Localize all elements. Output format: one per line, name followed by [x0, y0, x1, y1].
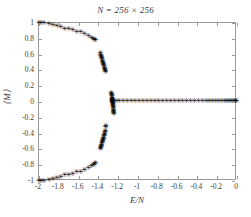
- data-point-marker: ✳: [102, 69, 108, 76]
- data-point-marker: ✳: [78, 29, 84, 36]
- data-point-marker: ✳: [164, 98, 170, 105]
- data-point-marker: ✳: [110, 105, 116, 112]
- data-point-marker: ✳: [89, 162, 95, 169]
- data-point-marker: ✳: [86, 164, 92, 171]
- data-point-marker: ✳: [101, 65, 107, 72]
- y-tick-mark-right: [232, 70, 235, 71]
- data-point-marker: ✳: [98, 141, 104, 148]
- data-point-marker: ✳: [109, 92, 115, 99]
- x-tick-label: -0.2: [210, 182, 222, 191]
- data-point-marker: ✳: [109, 97, 115, 104]
- data-point-marker: ✳: [97, 145, 103, 152]
- data-point-marker: ✳: [223, 98, 229, 105]
- data-point-marker: ✳: [140, 97, 146, 104]
- data-point-marker: ✳: [120, 98, 126, 105]
- data-point-marker: ✳: [116, 97, 122, 104]
- x-tick-mark: [197, 176, 198, 179]
- data-point-marker: ✳: [128, 98, 134, 105]
- data-point-marker: ✳: [102, 124, 108, 131]
- data-point-marker: ✳: [92, 160, 98, 167]
- x-tick-label: -1: [134, 182, 140, 191]
- x-tick-mark-top: [237, 23, 238, 26]
- y-tick-mark: [39, 39, 42, 40]
- data-point-marker: ✳: [99, 56, 105, 63]
- data-point-marker: ✳: [180, 97, 186, 104]
- data-point-marker: ✳: [101, 64, 107, 71]
- data-point-marker: ✳: [110, 97, 116, 104]
- data-point-marker: ✳: [132, 97, 138, 104]
- page-title: N = 256 × 256: [0, 5, 251, 15]
- data-point-marker: ✳: [109, 91, 115, 98]
- y-tick-label: -0.4: [4, 128, 34, 137]
- data-point-marker: ✳: [74, 28, 80, 35]
- y-tick-mark-right: [232, 23, 235, 24]
- data-point-marker: ✳: [203, 98, 209, 105]
- x-axis-label: E/N: [38, 195, 236, 205]
- x-tick-mark-top: [217, 23, 218, 26]
- data-point-marker: ✳: [100, 134, 106, 141]
- y-tick-mark: [39, 23, 42, 24]
- data-point-marker: ✳: [168, 97, 174, 104]
- x-tick-mark-top: [178, 23, 179, 26]
- x-tick-mark: [79, 176, 80, 179]
- data-point-marker: ✳: [97, 146, 103, 153]
- data-point-marker: ✳: [103, 122, 109, 129]
- y-tick-mark: [39, 149, 42, 150]
- data-point-marker: ✳: [100, 61, 106, 68]
- data-point-marker: ✳: [92, 161, 98, 168]
- data-point-marker: ✳: [89, 35, 95, 42]
- x-tick-mark-top: [138, 23, 139, 26]
- data-point-marker: ✳: [101, 130, 107, 137]
- data-point-marker: ✳: [109, 99, 115, 106]
- y-tick-mark: [39, 134, 42, 135]
- data-point-marker: ✳: [70, 27, 76, 34]
- data-point-marker: ✳: [78, 168, 84, 175]
- data-point-marker: ✳: [229, 97, 235, 104]
- y-tick-label: 0.2: [4, 81, 34, 90]
- data-point-marker: ✳: [110, 99, 116, 106]
- y-tick-mark-right: [232, 55, 235, 56]
- y-tick-label: -0.8: [4, 160, 34, 169]
- data-point-marker: ✳: [62, 25, 68, 32]
- x-tick-mark: [39, 176, 40, 179]
- data-point-marker: ✳: [195, 97, 201, 104]
- y-tick-label: 0.8: [4, 33, 34, 42]
- y-tick-mark: [39, 70, 42, 71]
- data-point-marker: ✳: [111, 110, 117, 117]
- data-point-marker: ✳: [110, 104, 116, 111]
- data-point-marker: ✳: [97, 51, 103, 58]
- data-point-marker: ✳: [74, 169, 80, 176]
- data-point-marker: ✳: [99, 58, 105, 65]
- data-point-marker: ✳: [113, 98, 119, 105]
- data-point-marker: ✳: [160, 98, 166, 105]
- x-tick-label: -0.4: [190, 182, 202, 191]
- x-tick-mark-top: [59, 23, 60, 26]
- data-point-marker: ✳: [109, 95, 115, 102]
- data-point-marker: ✳: [82, 31, 88, 38]
- data-point-marker: ✳: [110, 99, 116, 106]
- y-tick-label: 1: [4, 18, 34, 27]
- y-tick-mark: [39, 102, 42, 103]
- x-tick-label: -0.6: [171, 182, 183, 191]
- data-point-marker: ✳: [172, 98, 178, 105]
- x-tick-label: -1.8: [52, 182, 64, 191]
- scatter-plot-figure: N = 256 × 256 ✳✳✳✳✳✳✳✳✳✳✳✳✳✳✳✳✳✳✳✳✳✳✳✳✳✳…: [0, 0, 251, 217]
- data-point-marker: ✳: [100, 62, 106, 69]
- data-point-marker: ✳: [97, 50, 103, 57]
- y-tick-mark: [39, 118, 42, 119]
- data-point-marker: ✳: [110, 106, 116, 113]
- x-tick-mark: [98, 176, 99, 179]
- y-tick-label: 0: [4, 97, 34, 106]
- data-point-marker: ✳: [110, 98, 116, 105]
- data-point-marker: ✳: [148, 97, 154, 104]
- data-point-marker: ✳: [101, 133, 107, 140]
- data-point-marker: ✳: [98, 52, 104, 59]
- data-point-marker: ✳: [101, 132, 107, 139]
- data-point-marker: ✳: [218, 98, 224, 105]
- x-tick-mark: [158, 176, 159, 179]
- x-tick-mark: [59, 176, 60, 179]
- y-tick-mark: [39, 165, 42, 166]
- data-point-marker: ✳: [206, 98, 212, 105]
- data-point-marker: ✳: [91, 35, 97, 42]
- data-point-marker: ✳: [124, 97, 130, 104]
